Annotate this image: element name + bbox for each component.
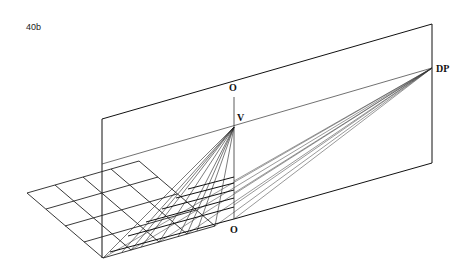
label-O-bottom: O [230, 224, 238, 235]
horizon-line [102, 68, 432, 164]
label-V: V [237, 112, 245, 123]
label-O-top: O [229, 82, 237, 93]
perspective-diagram: O V DP O [0, 0, 469, 260]
rays-to-V [103, 127, 234, 258]
label-DP: DP [436, 63, 449, 74]
